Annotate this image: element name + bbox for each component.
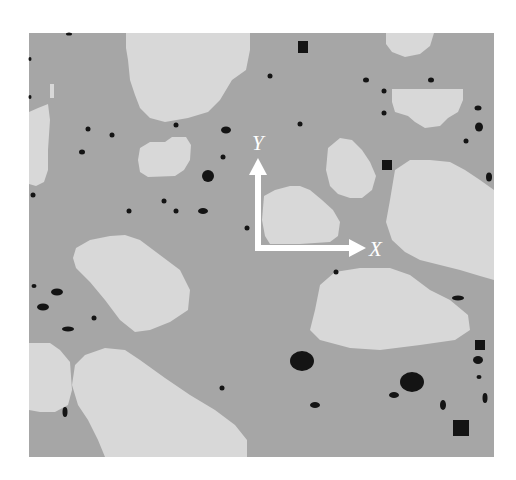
particle [63,407,68,417]
particle [475,106,482,111]
particle [475,123,483,132]
particle [486,173,492,182]
particle [29,95,32,99]
particle [389,392,399,398]
particle [452,296,464,301]
particle [400,372,424,392]
particle [92,316,97,321]
particle [86,127,91,132]
particle [127,209,132,214]
particle [174,123,179,128]
particle [298,41,308,53]
grain-small-mark [50,84,54,98]
particle [162,199,167,204]
particle [110,133,115,138]
particle [37,304,49,311]
particle [268,74,273,79]
particle [174,209,179,214]
particle [29,57,32,61]
particle [453,420,469,436]
particle [245,226,250,231]
particle [464,139,469,144]
particle [382,89,387,94]
particle [221,127,231,134]
particle [334,270,339,275]
y-axis-line [255,172,261,251]
particle [202,170,214,182]
particle [298,122,303,127]
particle [473,356,483,364]
particle [62,327,74,332]
particle [198,208,208,214]
particle [477,375,482,379]
x-axis-line [255,245,353,251]
particle [440,400,446,410]
particle [363,78,369,83]
particle [31,193,36,198]
particle [221,155,226,160]
particle [382,160,392,170]
particle [66,33,72,36]
particle [483,393,488,403]
particle [382,111,387,116]
particle [428,78,434,83]
particle [220,386,225,391]
particle [475,340,485,350]
microstructure-figure: Y X [0,0,516,480]
particle [51,289,63,296]
particle [79,150,85,155]
particle [290,351,314,371]
x-axis-label: X [368,237,383,261]
particle [32,284,37,288]
particle [310,402,320,408]
